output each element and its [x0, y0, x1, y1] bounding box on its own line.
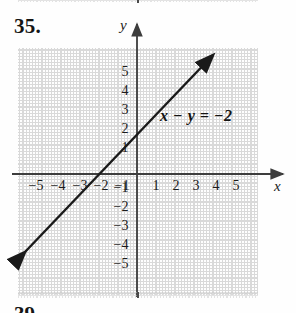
coordinate-plane: y x −5 −4 −3 −2 −1 1 2 3 4 5 5 4 3 2 1 −…	[0, 0, 296, 313]
y-tick-label-5: 5	[115, 64, 135, 80]
x-axis-label: x	[274, 178, 281, 195]
y-tick-label-4: 4	[115, 83, 135, 99]
y-tick-label-1: 1	[115, 140, 135, 156]
figure-screenshot: 35. y x −5 −4 −3 −2	[0, 0, 296, 313]
x-tick-label-4: 4	[206, 178, 226, 194]
plot-vectors	[0, 0, 296, 313]
x-tick-label-5: 5	[226, 178, 246, 194]
x-tick-label-3: 3	[186, 178, 206, 194]
equation-annotation: x − y = −2	[160, 107, 233, 125]
x-tick-label-2: 2	[166, 178, 186, 194]
x-tick-label--5: −5	[26, 178, 46, 194]
y-tick-label-3: 3	[115, 102, 135, 118]
y-tick-label--3: −3	[111, 218, 131, 234]
y-axis-label: y	[120, 17, 127, 34]
x-tick-label--4: −4	[48, 178, 68, 194]
x-tick-label--3: −3	[70, 178, 90, 194]
next-figure-axis-fragment	[137, 292, 139, 298]
x-tick-label-1: 1	[146, 178, 166, 194]
y-tick-label--1: −1	[111, 180, 131, 196]
y-tick-label--4: −4	[111, 237, 131, 253]
y-tick-label--5: −5	[111, 256, 131, 272]
next-problem-number: 39.	[14, 304, 40, 313]
y-tick-label--2: −2	[111, 199, 131, 215]
x-tick-label--2: −2	[91, 178, 111, 194]
y-tick-label-2: 2	[115, 121, 135, 137]
